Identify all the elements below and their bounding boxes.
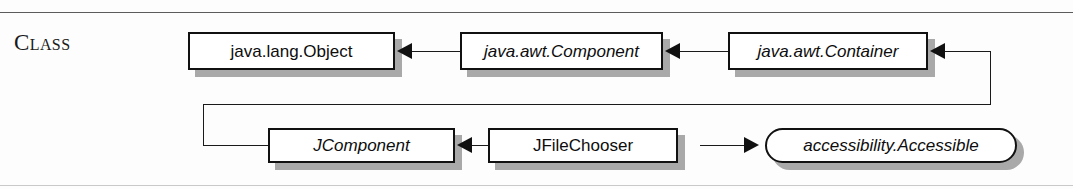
node-jfilechooser[interactable]: JFileChooser (488, 128, 678, 163)
node-jcomponent[interactable]: JComponent (268, 128, 455, 163)
edge-jcomponent-to-container-entry (203, 145, 270, 146)
edge-jfilechooser-to-accessible (700, 145, 748, 146)
arrowhead-component-to-object (397, 43, 412, 59)
header-rule (0, 12, 1073, 13)
edge-jcomponent-to-container-left (203, 104, 204, 145)
edge-jcomponent-to-container-right (990, 51, 991, 105)
node-label-jfilechooser: JFileChooser (523, 137, 643, 154)
edge-jfilechooser-to-jcomponent (472, 145, 488, 146)
arrowhead-jfilechooser-to-accessible (744, 137, 759, 153)
section-label-class: Class (14, 30, 70, 56)
arrowhead-jfilechooser-to-jcomponent (457, 137, 472, 153)
edge-container-to-component (680, 51, 728, 52)
node-java-lang-object[interactable]: java.lang.Object (188, 32, 395, 70)
footer-rule (0, 185, 1073, 186)
node-label-accessibility-accessible: accessibility.Accessible (793, 137, 988, 154)
edge-jcomponent-to-container-long (203, 104, 991, 105)
node-accessibility-accessible[interactable]: accessibility.Accessible (765, 128, 1017, 163)
edge-jcomponent-to-container-top (945, 51, 991, 52)
arrowhead-jcomponent-to-container (930, 43, 945, 59)
edge-component-to-object (412, 51, 460, 52)
node-label-jcomponent: JComponent (303, 137, 419, 154)
node-label-java-awt-container: java.awt.Container (748, 43, 909, 60)
arrowhead-container-to-component (665, 43, 680, 59)
node-java-awt-container[interactable]: java.awt.Container (728, 32, 928, 70)
node-label-java-awt-component: java.awt.Component (474, 43, 649, 60)
node-java-awt-component[interactable]: java.awt.Component (460, 32, 663, 70)
class-hierarchy-figure: Class java.lang.Object java.awt.Componen… (0, 0, 1073, 189)
node-label-java-lang-object: java.lang.Object (221, 43, 363, 60)
